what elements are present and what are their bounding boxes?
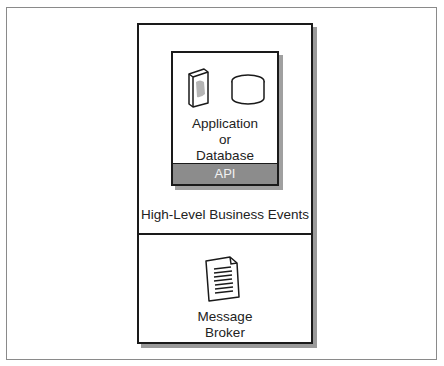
document-icon (202, 255, 242, 303)
message-broker-label: Message Broker (137, 309, 313, 341)
api-bar: API (173, 163, 277, 184)
section-divider (137, 233, 313, 235)
label-line-2: or (171, 132, 279, 148)
events-label: High-Level Business Events (137, 207, 313, 223)
application-or-database-label: Application or Database (171, 116, 279, 164)
label-line-1: Application (171, 116, 279, 132)
label-line-2: Broker (137, 325, 313, 341)
book-icon (185, 68, 215, 108)
label-line-3: Database (171, 148, 279, 164)
database-icon (230, 73, 266, 107)
label-line-1: Message (137, 309, 313, 325)
